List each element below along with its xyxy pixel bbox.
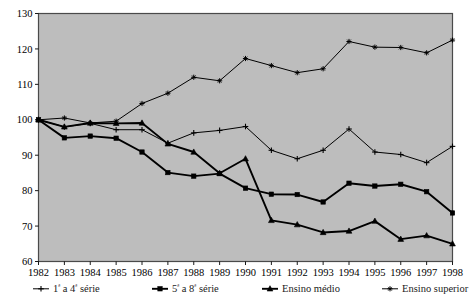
y-tick-label: 70 [22, 221, 33, 232]
data-point [321, 200, 325, 204]
data-point [347, 181, 351, 185]
y-tick-label: 90 [22, 150, 33, 161]
legend-label: 5ª a 8ª série [172, 283, 219, 294]
legend-label: 1ª a 4ª série [53, 283, 100, 294]
x-tick-label: 1992 [287, 267, 308, 278]
y-tick-label: 130 [17, 8, 33, 19]
data-point [450, 211, 454, 215]
data-point [269, 192, 273, 196]
x-tick-label: 1984 [80, 267, 102, 278]
x-tick-label: 1985 [106, 267, 127, 278]
legend-item-1[interactable]: 1ª a 4ª série [33, 283, 100, 294]
x-tick-label: 1996 [390, 267, 411, 278]
data-point [424, 190, 428, 194]
x-tick-label: 1994 [339, 267, 361, 278]
legend-label: Ensino médio [282, 283, 340, 294]
data-point [114, 136, 118, 140]
x-tick-label: 1998 [442, 267, 463, 278]
y-tick-label: 80 [22, 185, 33, 196]
data-point [140, 150, 144, 154]
y-tick-label: 100 [17, 114, 33, 125]
x-tick-label: 1987 [157, 267, 178, 278]
data-point [62, 136, 66, 140]
x-tick-label: 1991 [261, 267, 282, 278]
data-point [192, 174, 196, 178]
x-tick-label: 1982 [28, 267, 49, 278]
y-tick-label: 60 [22, 256, 33, 267]
data-point [158, 287, 162, 291]
legend-label: Ensino superior [402, 283, 469, 294]
line-chart: 6070809010011012013019821983198419851986… [0, 0, 469, 307]
x-tick-label: 1988 [183, 267, 204, 278]
x-tick-label: 1993 [313, 267, 334, 278]
data-point [243, 186, 247, 190]
x-tick-label: 1995 [364, 267, 385, 278]
x-tick-label: 1997 [416, 267, 437, 278]
chart-legend: 1ª a 4ª série5ª a 8ª sérieEnsino médioEn… [33, 283, 469, 294]
x-tick-label: 1989 [209, 267, 230, 278]
x-tick-label: 1986 [132, 267, 153, 278]
legend-item-2[interactable]: 5ª a 8ª série [152, 283, 219, 294]
x-tick-label: 1990 [235, 267, 256, 278]
x-axis: 1982198319841985198619871988198919901991… [28, 262, 463, 279]
legend-item-4[interactable]: Ensino superior [382, 283, 469, 294]
data-point [399, 182, 403, 186]
data-point [373, 184, 377, 188]
data-point [166, 170, 170, 174]
legend-item-3[interactable]: Ensino médio [262, 283, 340, 294]
data-point [295, 192, 299, 196]
y-axis: 60708090100110120130 [17, 8, 39, 267]
y-tick-label: 120 [17, 44, 33, 55]
chart-figure: 6070809010011012013019821983198419851986… [0, 0, 469, 307]
x-tick-label: 1983 [54, 267, 75, 278]
y-tick-label: 110 [17, 79, 32, 90]
data-point [88, 134, 92, 138]
